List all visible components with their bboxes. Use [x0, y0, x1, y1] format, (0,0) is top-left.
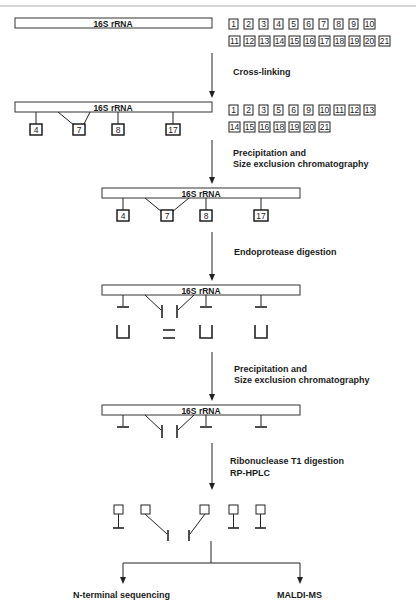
- protein-label: 2: [246, 105, 251, 115]
- protein-label: 5: [291, 19, 296, 29]
- protein-label: 16: [260, 122, 270, 132]
- stage-digested: 16S rRNA: [102, 285, 300, 338]
- step-label-crosslinking: Cross-linking: [233, 67, 291, 77]
- rrna-label: 16S rRNA: [181, 406, 220, 416]
- protein-label: 2: [246, 19, 251, 29]
- protein-label: 11: [335, 105, 344, 115]
- protein-label: 12: [245, 36, 255, 46]
- protein-label: 18: [335, 36, 345, 46]
- protein-fragment-4: [117, 325, 129, 338]
- protein-label: 17: [256, 211, 266, 221]
- stage-crosslinked: 16S rRNA 4 7 8 17 12356910111213 1415161…: [15, 102, 375, 135]
- protein-label: 9: [306, 105, 311, 115]
- rrna-label: 16S rRNA: [181, 189, 220, 199]
- arrow-head-icon: [209, 177, 215, 184]
- protein-label: 5: [276, 105, 281, 115]
- protein-label: 20: [365, 36, 375, 46]
- protein-label: 15: [245, 122, 255, 132]
- protein-label: 4: [276, 19, 281, 29]
- protein-label: 3: [261, 105, 266, 115]
- protein-label: 6: [291, 105, 296, 115]
- rrna-label: 16S rRNA: [93, 19, 132, 29]
- output-n-terminal-sequencing: N-terminal sequencing: [73, 590, 170, 600]
- protein-label: 9: [351, 19, 356, 29]
- step-label-sec: Size exclusion chromatography: [233, 159, 369, 169]
- step-label-precipitation-2: Precipitation and: [234, 364, 307, 374]
- protein-label: 20: [305, 122, 315, 132]
- workflow-diagram: 16S rRNA 12345678910 1112131415161718192…: [0, 0, 416, 607]
- protein-label: 10: [365, 19, 375, 29]
- step-label-rnase: Ribonuclease T1 digestion: [230, 456, 344, 466]
- protein-label: 1: [231, 19, 236, 29]
- protein-label: 17: [320, 36, 330, 46]
- protein-label: 1: [231, 105, 236, 115]
- protein-label: 8: [204, 211, 209, 221]
- protein-label: 21: [380, 36, 390, 46]
- protein-label: 17: [168, 125, 178, 135]
- protein-label: 15: [290, 36, 300, 46]
- stage-purified: 16S rRNA 4 7 8 17: [102, 188, 300, 221]
- rrna-label: 16S rRNA: [93, 103, 132, 113]
- step-label-endoprotease: Endoprotease digestion: [234, 247, 337, 257]
- free-protein-row-1: 12356910111213: [229, 105, 375, 115]
- protein-fragment-17: [255, 325, 267, 338]
- split-arrows: [120, 541, 303, 584]
- stage-purified-digested: 16S rRNA: [102, 405, 300, 438]
- protein-fragment-8: [200, 325, 212, 338]
- protein-label: 18: [275, 122, 285, 132]
- arrow-head-icon: [120, 577, 126, 584]
- step-label-precipitation: Precipitation and: [233, 148, 306, 158]
- arrow-head-icon: [209, 91, 215, 98]
- protein-label: 7: [321, 19, 326, 29]
- protein-label: 19: [290, 122, 300, 132]
- arrow-head-icon: [297, 577, 303, 584]
- free-protein-row-1: 12345678910: [229, 19, 375, 29]
- protein-label: 14: [230, 122, 240, 132]
- protein-label: 13: [365, 105, 375, 115]
- protein-label: 11: [230, 36, 239, 46]
- protein-label: 13: [260, 36, 270, 46]
- protein-label: 3: [261, 19, 266, 29]
- step-label-hplc: RP-HPLC: [230, 468, 270, 478]
- arrow-head-icon: [209, 394, 215, 401]
- protein-label: 10: [320, 105, 330, 115]
- protein-label: 4: [34, 125, 39, 135]
- protein-label: 14: [275, 36, 285, 46]
- rrna-label: 16S rRNA: [181, 286, 220, 296]
- protein-label: 21: [320, 122, 330, 132]
- protein-label: 7: [165, 211, 170, 221]
- protein-label: 8: [116, 125, 121, 135]
- arrow-head-icon: [209, 483, 215, 490]
- free-protein-row-2: 14151618192021: [229, 122, 330, 132]
- step-label-sec-2: Size exclusion chromatography: [234, 375, 370, 385]
- arrow-head-icon: [209, 274, 215, 281]
- output-maldi-ms: MALDI-MS: [277, 590, 322, 600]
- stage-initial: 16S rRNA 12345678910 1112131415161718192…: [15, 18, 390, 46]
- stage-conjugates: [113, 505, 266, 541]
- protein-label: 7: [77, 125, 82, 135]
- protein-label: 16: [305, 36, 315, 46]
- free-protein-row-2: 1112131415161718192021: [229, 36, 390, 46]
- protein-label: 12: [350, 105, 360, 115]
- protein-label: 8: [336, 19, 341, 29]
- protein-label: 19: [350, 36, 360, 46]
- protein-label: 6: [306, 19, 311, 29]
- protein-label: 4: [121, 211, 126, 221]
